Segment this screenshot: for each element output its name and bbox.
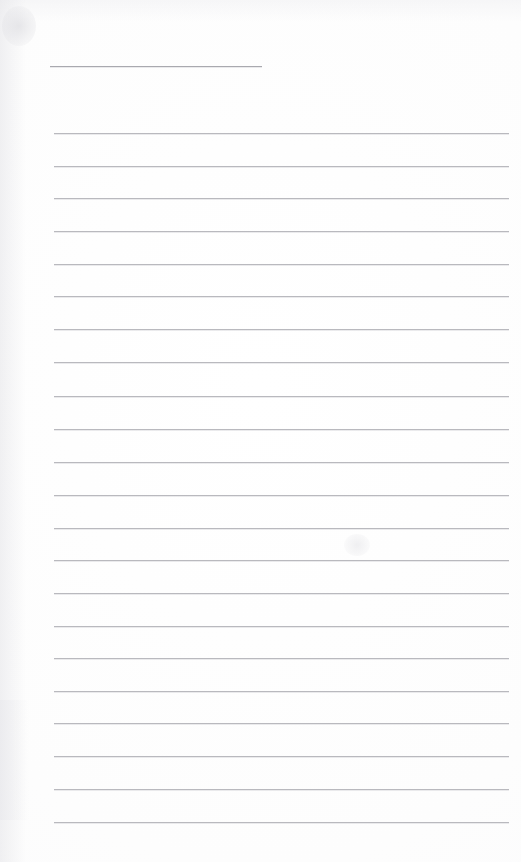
ruled-line xyxy=(54,198,509,199)
ruled-line xyxy=(54,362,509,363)
ruled-line xyxy=(54,133,509,134)
ruled-line xyxy=(54,296,509,297)
ruled-line xyxy=(54,396,509,397)
ruled-line xyxy=(54,756,509,757)
ruled-line xyxy=(54,329,509,330)
ruled-line xyxy=(54,264,509,265)
writing-area[interactable] xyxy=(0,0,521,862)
ruled-line xyxy=(54,528,509,529)
ruled-line xyxy=(54,822,509,823)
ruled-line xyxy=(54,429,509,430)
notebook-page xyxy=(0,0,521,862)
ruled-line xyxy=(54,166,509,167)
ruled-line xyxy=(54,495,509,496)
ruled-line xyxy=(54,691,509,692)
ruled-line xyxy=(54,658,509,659)
ruled-line xyxy=(54,723,509,724)
ruled-line xyxy=(54,231,509,232)
ruled-line xyxy=(54,789,509,790)
ruled-line xyxy=(54,593,509,594)
ruled-line xyxy=(54,462,509,463)
ruled-line xyxy=(54,560,509,561)
ruled-line xyxy=(54,626,509,627)
